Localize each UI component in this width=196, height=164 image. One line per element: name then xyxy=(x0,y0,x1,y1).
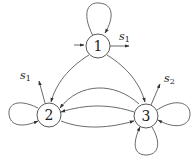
state-diagram: 1 2 3 s1 s1 s2 xyxy=(0,0,196,164)
edge-2-to-3 xyxy=(61,121,134,127)
node-2: 2 xyxy=(37,103,61,127)
output-label-node3: s2 xyxy=(164,72,175,86)
output-label-node2: s1 xyxy=(20,69,31,83)
edge-2-output-s1 xyxy=(39,81,45,103)
edge-3-to-2-middle xyxy=(61,106,134,112)
node-3-label: 3 xyxy=(142,108,151,124)
edge-2-self-loop xyxy=(9,103,38,125)
node-1: 1 xyxy=(86,34,110,58)
edge-3-self-loop-right xyxy=(157,103,190,126)
edge-3-output-s2 xyxy=(151,84,160,105)
edge-1-to-2 xyxy=(51,55,89,102)
node-2-label: 2 xyxy=(45,107,54,123)
node-1-label: 1 xyxy=(94,38,103,54)
edge-1-self-loop xyxy=(87,3,111,36)
node-3: 3 xyxy=(134,104,158,128)
edge-3-self-loop-bottom xyxy=(135,127,157,155)
edge-3-to-2-upper xyxy=(60,88,139,108)
output-label-node1: s1 xyxy=(119,30,130,44)
